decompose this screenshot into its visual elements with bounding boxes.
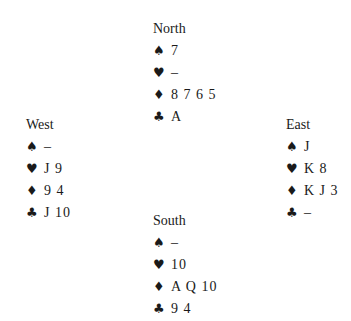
south-hearts-row: ♥10	[153, 254, 217, 276]
west-hearts-cards: J 9	[44, 161, 63, 176]
north-spades-row: ♠7	[153, 40, 217, 62]
west-hand: West ♠– ♥J 9 ♦9 4 ♣J 10	[26, 114, 71, 224]
north-clubs-cards: A	[171, 109, 182, 124]
north-diamonds-row: ♦8 7 6 5	[153, 84, 217, 106]
club-icon: ♣	[26, 202, 40, 224]
east-hearts-row: ♥K 8	[286, 158, 339, 180]
east-spades-row: ♠J	[286, 136, 339, 158]
south-spades-row: ♠–	[153, 232, 217, 254]
heart-icon: ♥	[153, 254, 167, 276]
south-diamonds-cards: A Q 10	[171, 279, 217, 294]
east-spades-cards: J	[304, 139, 310, 154]
south-diamonds-row: ♦A Q 10	[153, 276, 217, 298]
north-hand: North ♠7 ♥– ♦8 7 6 5 ♣A	[153, 18, 217, 128]
north-spades-cards: 7	[171, 43, 179, 58]
east-hand: East ♠J ♥K 8 ♦K J 3 ♣–	[286, 114, 339, 224]
west-clubs-row: ♣J 10	[26, 202, 71, 224]
west-clubs-cards: J 10	[44, 205, 71, 220]
heart-icon: ♥	[153, 62, 167, 84]
west-hearts-row: ♥J 9	[26, 158, 71, 180]
south-clubs-cards: 9 4	[171, 301, 192, 316]
east-clubs-row: ♣–	[286, 202, 339, 224]
club-icon: ♣	[153, 106, 167, 128]
diamond-icon: ♦	[286, 180, 300, 202]
spade-icon: ♠	[153, 232, 167, 254]
west-diamonds-row: ♦9 4	[26, 180, 71, 202]
hand-label-east: East	[286, 114, 339, 136]
east-clubs-cards: –	[304, 205, 312, 220]
diamond-icon: ♦	[153, 84, 167, 106]
south-clubs-row: ♣9 4	[153, 298, 217, 320]
hand-label-west: West	[26, 114, 71, 136]
spade-icon: ♠	[286, 136, 300, 158]
west-spades-cards: –	[44, 139, 52, 154]
east-hearts-cards: K 8	[304, 161, 328, 176]
hand-label-north: North	[153, 18, 217, 40]
north-clubs-row: ♣A	[153, 106, 217, 128]
north-hearts-cards: –	[171, 65, 179, 80]
diamond-icon: ♦	[153, 276, 167, 298]
north-diamonds-cards: 8 7 6 5	[171, 87, 217, 102]
club-icon: ♣	[153, 298, 167, 320]
club-icon: ♣	[286, 202, 300, 224]
diamond-icon: ♦	[26, 180, 40, 202]
north-hearts-row: ♥–	[153, 62, 217, 84]
spade-icon: ♠	[153, 40, 167, 62]
south-hand: South ♠– ♥10 ♦A Q 10 ♣9 4	[153, 210, 217, 320]
spade-icon: ♠	[26, 136, 40, 158]
south-spades-cards: –	[171, 235, 179, 250]
east-diamonds-cards: K J 3	[304, 183, 339, 198]
heart-icon: ♥	[26, 158, 40, 180]
west-spades-row: ♠–	[26, 136, 71, 158]
heart-icon: ♥	[286, 158, 300, 180]
hand-label-south: South	[153, 210, 217, 232]
west-diamonds-cards: 9 4	[44, 183, 65, 198]
east-diamonds-row: ♦K J 3	[286, 180, 339, 202]
south-hearts-cards: 10	[171, 257, 187, 272]
